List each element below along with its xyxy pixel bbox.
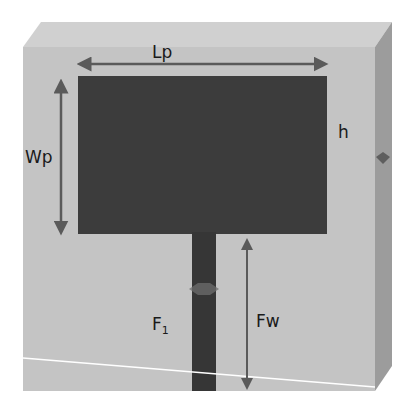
label-fw: Fw: [256, 313, 280, 330]
label-f1-main: F: [152, 314, 162, 334]
label-h: h: [338, 124, 349, 141]
feed-line: [192, 232, 216, 391]
label-f1-subscript: 1: [162, 324, 169, 337]
label-f1: F1: [152, 316, 169, 336]
label-wp: Wp: [25, 149, 53, 166]
radiating-patch: [78, 76, 327, 234]
substrate-top-face: [23, 22, 392, 47]
label-lp: Lp: [152, 44, 172, 61]
substrate-side-face: [375, 22, 392, 391]
patch-antenna-diagram: [0, 0, 411, 411]
